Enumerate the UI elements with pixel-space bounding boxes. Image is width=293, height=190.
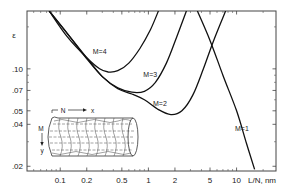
x-tick-label: 2 xyxy=(173,176,178,185)
inset-label-n: N xyxy=(61,107,66,114)
y-tick-label: .07 xyxy=(12,86,24,95)
y-tick-label: .05 xyxy=(12,107,24,116)
x-tick-label: 0.1 xyxy=(55,176,67,185)
curve-m-3 xyxy=(49,11,186,93)
curve-label: M=3 xyxy=(143,71,157,78)
y-axis-label: ε xyxy=(12,31,16,40)
inset-label-m: M xyxy=(38,125,43,132)
x-axis-tick-labels: 0.10.20.512510 xyxy=(55,176,242,185)
x-tick-label: 0.2 xyxy=(81,176,93,185)
curve-m-1 xyxy=(197,11,254,169)
inset-tube-diagram: N x M y xyxy=(38,107,138,159)
x-tick-label: 5 xyxy=(208,176,213,185)
curve-label: M=4 xyxy=(93,48,107,55)
x-tick-label: 1 xyxy=(146,176,151,185)
curve-label: M=2 xyxy=(153,100,167,107)
x-axis-label: L/N, nm xyxy=(248,176,276,185)
curve-m-4 xyxy=(49,11,158,72)
curve-label: M=1 xyxy=(235,125,249,132)
y-tick-label: .10 xyxy=(12,65,24,74)
x-tick-label: 0.5 xyxy=(116,176,128,185)
x-tick-label: 10 xyxy=(232,176,241,185)
curve-m-2 xyxy=(49,11,225,115)
y-tick-label: .02 xyxy=(12,162,24,171)
y-tick-label: .04 xyxy=(12,120,24,129)
chart: 0.10.20.512510 .10.07.05.04.02 L/N, nm ε… xyxy=(0,0,293,190)
inset-label-x: x xyxy=(91,107,95,114)
x-arrowhead-icon xyxy=(83,108,87,111)
x-direction-arrow xyxy=(52,110,84,113)
y-axis-tick-labels: .10.07.05.04.02 xyxy=(12,65,24,171)
